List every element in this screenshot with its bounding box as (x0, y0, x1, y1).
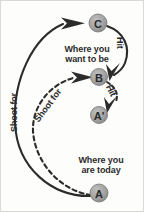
node-a-prime: A' (91, 107, 108, 124)
caption-today-line-1: Where you (75, 155, 127, 165)
diagram-canvas: C B A' A (1, 1, 144, 212)
node-a: A (90, 184, 108, 202)
arrowhead-dashed-to-b (71, 72, 93, 84)
caption-want-line-2: want to be (61, 54, 113, 64)
node-b: B (91, 69, 108, 86)
edge-label-shoot-for-solid: Shoot for (9, 93, 19, 132)
caption-where-you-want-to-be: Where you want to be (61, 44, 113, 64)
caption-where-you-are-today: Where you are today (75, 155, 127, 175)
caption-want-line-1: Where you (61, 44, 113, 54)
goal-setting-diagram: C B A' A Where you want to be Where you … (0, 0, 144, 212)
caption-today-line-2: are today (75, 165, 127, 175)
edge-label-hit-from-c: Hit (115, 37, 125, 49)
node-c: C (89, 14, 107, 32)
edge-shoot-for-dashed (33, 72, 93, 196)
arrowhead-to-c (61, 18, 85, 30)
